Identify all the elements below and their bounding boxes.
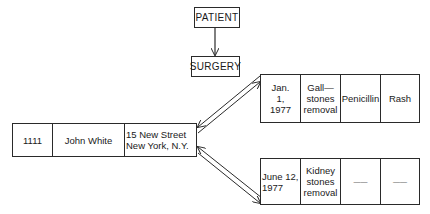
surgery-segment-box: SURGERY	[191, 56, 240, 77]
surgery-drug-cell: ——	[340, 159, 380, 204]
pointer-to-child-2	[198, 153, 260, 203]
pointer-to-child-1	[198, 82, 260, 133]
surgery-procedure-cell: Gall— stones removal	[300, 75, 340, 122]
patient-segment-box: PATIENT	[194, 7, 240, 28]
patient-id-cell: 1111	[13, 124, 52, 156]
surgery-date-cell: Jan. 1, 1977	[261, 75, 300, 122]
surgery-record-2: June 12, 1977 Kidney stones removal —— —…	[260, 158, 420, 205]
pointer-to-parent-2	[198, 147, 262, 198]
surgery-procedure-cell: Kidney stones removal	[300, 159, 340, 204]
patient-address-cell: 15 New Street New York, N.Y.	[124, 124, 196, 156]
pointer-to-parent-1	[198, 76, 260, 127]
surgery-drug-cell: Penicillin	[340, 75, 380, 122]
surgery-record-1: Jan. 1, 1977 Gall— stones removal Penici…	[260, 74, 420, 123]
surgery-date-cell: June 12, 1977	[261, 159, 300, 204]
surgery-reaction-cell: Rash	[380, 75, 419, 122]
surgery-reaction-cell: ——	[380, 159, 419, 204]
patient-name-cell: John White	[52, 124, 124, 156]
patient-record: 1111 John White 15 New Street New York, …	[12, 123, 197, 157]
